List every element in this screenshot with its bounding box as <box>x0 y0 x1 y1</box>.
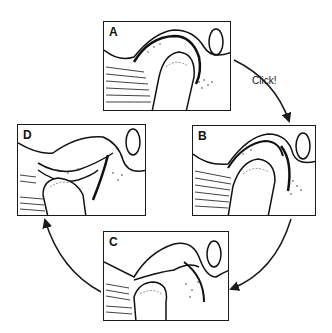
arrow-b-to-c <box>231 219 291 289</box>
panel-c: C <box>103 231 229 321</box>
joint-illustration-d <box>18 125 146 216</box>
joint-illustration-c <box>104 232 229 321</box>
joint-illustration-b <box>193 126 316 216</box>
panel-b: B <box>192 125 316 216</box>
panel-d: D <box>17 124 146 216</box>
arrow-a-to-b <box>234 60 289 121</box>
panel-d-label: D <box>23 128 32 142</box>
tmj-cycle-diagram: Click! A B <box>0 0 332 333</box>
click-annotation: Click! <box>252 75 276 86</box>
joint-illustration-a <box>104 22 231 111</box>
panel-a-label: A <box>109 25 118 39</box>
panel-c-label: C <box>109 235 118 249</box>
arrow-c-to-d <box>45 220 101 292</box>
panel-b-label: B <box>198 129 207 143</box>
panel-a: A <box>103 21 231 111</box>
